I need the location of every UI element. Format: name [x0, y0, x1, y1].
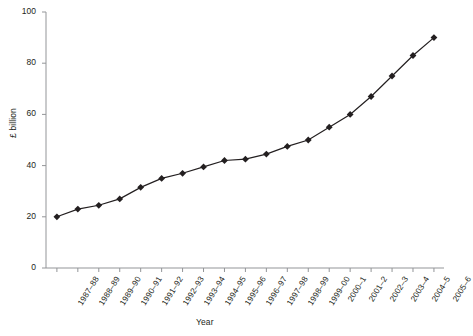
data-series-markers	[53, 34, 437, 220]
data-point-marker	[137, 184, 144, 191]
data-point-marker	[74, 206, 81, 213]
data-point-marker	[242, 156, 249, 163]
x-axis-tick-label: 2005–6	[451, 275, 473, 303]
data-point-marker	[305, 137, 312, 144]
data-point-marker	[326, 124, 333, 131]
data-point-marker	[284, 143, 291, 150]
x-axis-ticks	[57, 268, 434, 272]
data-point-marker	[158, 175, 165, 182]
data-point-marker	[263, 151, 270, 158]
chart-axes	[42, 12, 444, 272]
y-axis-ticks	[42, 12, 46, 268]
data-point-marker	[116, 195, 123, 202]
data-point-marker	[221, 157, 228, 164]
data-point-marker	[53, 213, 60, 220]
data-point-marker	[179, 170, 186, 177]
data-point-marker	[95, 202, 102, 209]
data-series-line	[57, 38, 434, 217]
data-point-marker	[200, 163, 207, 170]
